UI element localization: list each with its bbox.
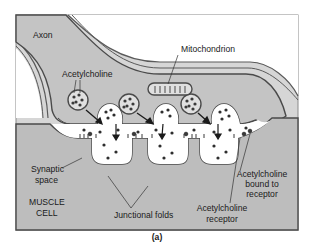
label-ach-receptor-line2: receptor (206, 214, 238, 224)
label-junctional-folds: Junctional folds (114, 210, 173, 220)
mitochondrion (148, 83, 192, 95)
label-synaptic-space-line2: space (35, 175, 58, 185)
figure-caption: (a) (152, 232, 163, 242)
vesicle-3 (181, 94, 201, 114)
label-muscle-cell-line1: MUSCLE (29, 197, 65, 207)
label-synaptic-space-line1: Synaptic (31, 164, 65, 174)
label-ach-receptor-line1: Acetylcholine (197, 203, 248, 213)
label-acetylcholine: Acetylcholine (62, 69, 113, 79)
label-mitochondrion: Mitochondrion (181, 44, 235, 54)
label-axon: Axon (33, 30, 53, 40)
label-muscle-cell-line2: CELL (36, 208, 58, 218)
vesicle-1 (68, 90, 88, 110)
label-ach-bound-line1: Acetylcholine (237, 169, 288, 179)
label-ach-bound-line3: receptor (246, 189, 278, 199)
label-ach-bound-line2: bound to (245, 179, 279, 189)
vesicle-2 (119, 94, 139, 114)
neuromuscular-junction-diagram: Axon Mitochondrion Acetylcholine Synapti… (0, 0, 314, 247)
